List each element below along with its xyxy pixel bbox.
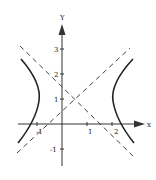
x-tick-label-1: 1 xyxy=(88,128,92,136)
x-axis-label: x xyxy=(147,121,151,129)
y-tick-label-2: 2 xyxy=(54,71,58,79)
x-axis-arrow-icon xyxy=(134,121,145,128)
asymptotes xyxy=(17,46,133,156)
y-axis-label: Y xyxy=(59,14,65,22)
x-tick-label-neg1: -1 xyxy=(36,128,43,136)
y-tick-label-1: 1 xyxy=(54,96,58,104)
x-tick-label-2: 2 xyxy=(114,128,118,136)
hyperbola-diagram: x Y -1 1 2 3 2 1 -1 xyxy=(0,0,156,180)
y-axis-arrow-icon xyxy=(59,24,66,35)
asymptote-negative-slope xyxy=(20,46,133,156)
y-tick-label-3: 3 xyxy=(54,46,58,54)
y-tick-label-neg1: -1 xyxy=(50,146,57,154)
axes xyxy=(18,24,145,166)
